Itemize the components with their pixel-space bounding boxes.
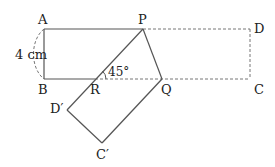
label-D: D [254, 21, 264, 36]
label-angle: 45° [108, 65, 129, 79]
segment-PQ [143, 29, 162, 79]
label-Q: Q [161, 82, 172, 97]
segment-D-prime-C-prime [67, 110, 102, 143]
segment-C-prime-Q [102, 79, 162, 143]
label-R: R [90, 82, 101, 97]
label-D-prime: D′ [50, 101, 63, 116]
segment-PD-prime [67, 29, 143, 110]
angle-arc-45 [103, 71, 107, 79]
label-C: C [254, 82, 264, 97]
folded-rectangle-diagram: A B P D R Q C D′ C′ 4 cm 45° [0, 0, 275, 167]
label-P: P [138, 12, 147, 27]
label-C-prime: C′ [96, 147, 109, 162]
label-side-length: 4 cm [15, 47, 47, 62]
label-B: B [38, 82, 48, 97]
label-A: A [37, 12, 48, 27]
